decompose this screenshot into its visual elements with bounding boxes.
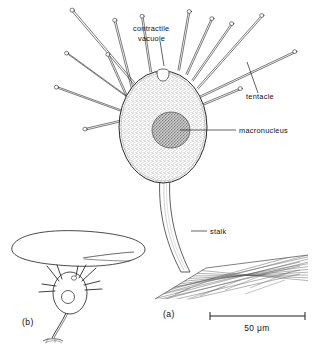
label-stalk: stalk [210,227,227,236]
contractile-vacuole-shape [157,69,169,81]
panel-b-nucleus [62,291,75,304]
label-tentacle: tentacle [246,92,274,101]
panel-b-cell-body [53,272,87,314]
label-contractile-vacuole-line1: contractile [133,24,169,33]
figure-illustration: contractile vacuole tentacle macronucleu… [0,0,316,351]
label-contractile-vacuole-line2: vacuole [138,34,165,43]
label-macronucleus: macronucleus [239,126,288,135]
panel-b-vacuole [71,276,76,280]
panel-label-b: (b) [22,317,34,327]
scale-bar-label: 50 μm [244,323,269,333]
suctorian-diagram-svg: contractile vacuole tentacle macronucleu… [0,0,316,351]
panel-label-a: (a) [163,309,175,319]
